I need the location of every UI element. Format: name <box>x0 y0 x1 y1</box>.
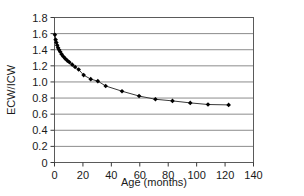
y-tick-label: 0.2 <box>32 140 47 152</box>
y-tick-label: 1.6 <box>32 28 47 40</box>
chart-figure: 00.20.40.60.81.01.21.41.61.8 02040608010… <box>0 0 304 196</box>
y-tick-label: 0.8 <box>32 92 47 104</box>
y-axis-title: ECW/ICW <box>5 64 17 115</box>
y-tick-label: 0 <box>41 157 47 169</box>
ecw-icw-vs-age-line-chart: 00.20.40.60.81.01.21.41.61.8 02040608010… <box>0 0 304 196</box>
y-tick-label: 1.2 <box>32 60 47 72</box>
y-tick-label: 0.4 <box>32 124 47 136</box>
x-tick-label: 40 <box>105 169 117 181</box>
y-tick-label: 0.6 <box>32 108 47 120</box>
x-tick-label: 20 <box>77 169 89 181</box>
x-tick-label: 120 <box>216 169 234 181</box>
x-tick-label: 140 <box>244 169 262 181</box>
y-tick-label: 1.8 <box>32 12 47 24</box>
y-tick-label: 1.4 <box>32 44 47 56</box>
x-axis-title: Age (months) <box>121 176 187 188</box>
x-tick-label: 100 <box>187 169 205 181</box>
y-tick-label: 1.0 <box>32 76 47 88</box>
x-tick-label: 0 <box>51 169 57 181</box>
